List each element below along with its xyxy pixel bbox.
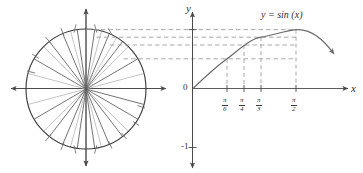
x-tick-label-pi-over-2: π 2 xyxy=(291,95,301,113)
x-tick-label-pi-over-6: π 6 xyxy=(222,95,232,113)
tick-numerator: π xyxy=(222,97,228,104)
x-axis-label: x xyxy=(351,82,356,94)
y-axis-label: y xyxy=(186,2,191,14)
x-tick-label-pi-over-4: π 4 xyxy=(239,95,249,113)
x-tick-label-pi-over-3: π 3 xyxy=(256,95,266,113)
tick-numerator: π xyxy=(239,97,245,104)
tick-denominator: 6 xyxy=(222,106,228,113)
unit-circle-group xyxy=(11,9,166,166)
sine-graph-group xyxy=(189,12,349,168)
tick-denominator: 4 xyxy=(239,106,245,113)
tick-denominator: 2 xyxy=(291,106,297,113)
tick-denominator: 3 xyxy=(256,106,262,113)
origin-label: 0 xyxy=(183,82,188,92)
curve-equation-label: y = sin (x) xyxy=(261,9,302,20)
figure-canvas: y x 0 -1 y = sin (x) π 6 π 4 π 3 π 2 xyxy=(0,0,363,173)
tick-numerator: π xyxy=(256,97,262,104)
vertical-dashed-lines xyxy=(227,30,296,86)
projection-dashed-lines xyxy=(86,30,296,59)
minus-one-label: -1 xyxy=(181,141,189,151)
tick-numerator: π xyxy=(291,97,297,104)
